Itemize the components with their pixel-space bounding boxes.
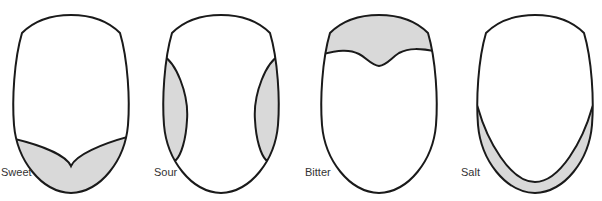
tongue-sour [161, 15, 281, 193]
label-bitter: Bitter [305, 166, 331, 178]
label-sour: Sour [154, 166, 177, 178]
label-salt: Salt [461, 166, 480, 178]
label-sweet: Sweet [1, 166, 32, 178]
tongue-salt [475, 15, 595, 200]
tongue-bitter [319, 0, 439, 193]
tongue-diagram [0, 0, 602, 201]
